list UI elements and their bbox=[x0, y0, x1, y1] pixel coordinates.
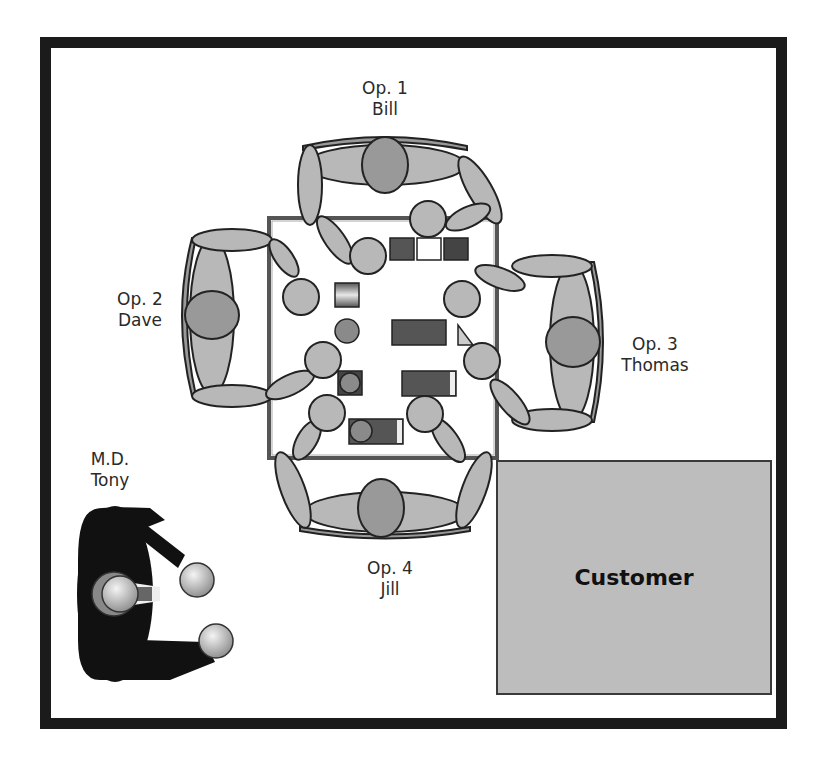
operator-4-name: Jill bbox=[350, 579, 430, 600]
operator-2-name: Dave bbox=[100, 310, 180, 331]
manager-name: Tony bbox=[70, 470, 150, 491]
customer-label: Customer bbox=[574, 565, 693, 590]
operator-1-label: Op. 1 Bill bbox=[345, 78, 425, 120]
small-circle-icon bbox=[335, 319, 359, 343]
manager-role: M.D. bbox=[70, 449, 150, 470]
dark-rect-with-bar-icon bbox=[402, 371, 456, 396]
operator-4-role: Op. 4 bbox=[350, 558, 430, 579]
operator-3-label: Op. 3 Thomas bbox=[610, 334, 700, 376]
operator-4-label: Op. 4 Jill bbox=[350, 558, 430, 600]
dark-rect-icon bbox=[392, 320, 446, 345]
customer-area: Customer bbox=[496, 460, 772, 695]
manager-figure bbox=[77, 506, 233, 682]
dark-square-icon bbox=[444, 238, 468, 260]
manager-label: M.D. Tony bbox=[70, 449, 150, 491]
operator-3-name: Thomas bbox=[610, 355, 700, 376]
operator-1-role: Op. 1 bbox=[345, 78, 425, 99]
white-square-icon bbox=[417, 238, 441, 260]
operator-2-role: Op. 2 bbox=[100, 289, 180, 310]
gradient-square-icon bbox=[335, 283, 359, 307]
dark-square-icon bbox=[390, 238, 414, 260]
operator-2-label: Op. 2 Dave bbox=[100, 289, 180, 331]
operator-3-role: Op. 3 bbox=[610, 334, 700, 355]
operator-1-name: Bill bbox=[345, 99, 425, 120]
